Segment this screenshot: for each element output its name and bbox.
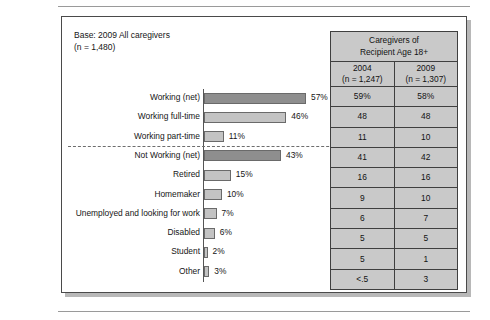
bar-row: Working full-time46% — [62, 108, 334, 127]
table-column-header-2004: 2004 (n = 1,247) — [331, 62, 395, 87]
table-cell-2009: 7 — [394, 208, 458, 228]
bar-category-label: Not Working (net) — [135, 150, 200, 160]
table-head: Caregivers of Recipient Age 18+ 2004 (n … — [331, 32, 458, 87]
table-cell-2004: 16 — [331, 168, 395, 188]
table-row: 59%58% — [331, 87, 458, 107]
bar-row: Student2% — [62, 243, 334, 262]
bar-value-label: 10% — [227, 189, 244, 199]
table-cell-2009: 48 — [394, 107, 458, 127]
table-column-header-row: 2004 (n = 1,247) 2009 (n = 1,307) — [331, 62, 458, 87]
bar-row: Working part-time11% — [62, 128, 334, 147]
bar — [204, 228, 215, 239]
chart-panel: Base: 2009 All caregivers (n = 1,480) Wo… — [61, 16, 467, 293]
bar-category-label: Working (net) — [150, 92, 200, 102]
comparison-table: Caregivers of Recipient Age 18+ 2004 (n … — [330, 31, 458, 290]
bar-category-label: Homemaker — [154, 189, 200, 199]
top-divider-rule — [58, 6, 470, 7]
table-cell-2004: 11 — [331, 127, 395, 147]
bar — [204, 189, 222, 200]
bar-category-label: Unemployed and looking for work — [76, 208, 200, 218]
bar — [204, 266, 209, 277]
table-cell-2004: 6 — [331, 208, 395, 228]
table-cell-2009: 10 — [394, 127, 458, 147]
table-cell-2004: <.5 — [331, 269, 395, 289]
bar-category-label: Working part-time — [134, 131, 200, 141]
bar-row: Retired15% — [62, 166, 334, 185]
bar-value-label: 2% — [213, 246, 225, 256]
table-row: 4848 — [331, 107, 458, 127]
table-row: 1616 — [331, 168, 458, 188]
table-cell-2004: 9 — [331, 188, 395, 208]
table-cell-2009: 5 — [394, 229, 458, 249]
table-row: 910 — [331, 188, 458, 208]
bottom-divider-rule — [58, 311, 470, 312]
table-row: 4142 — [331, 147, 458, 167]
table-cell-2009: 16 — [394, 168, 458, 188]
table-column-header-2009: 2009 (n = 1,307) — [394, 62, 458, 87]
bar-row: Disabled6% — [62, 224, 334, 243]
bar-category-label: Working full-time — [138, 111, 200, 121]
bar-category-label: Disabled — [167, 227, 200, 237]
table-row: 55 — [331, 229, 458, 249]
table-cell-2009: 42 — [394, 147, 458, 167]
table-cell-2004: 5 — [331, 249, 395, 269]
bar — [204, 93, 306, 104]
bar-row: Other3% — [62, 263, 334, 282]
table-cell-2004: 5 — [331, 229, 395, 249]
table-row: 67 — [331, 208, 458, 228]
bar — [204, 208, 217, 219]
bar-value-label: 3% — [214, 266, 226, 276]
bar-category-label: Retired — [173, 169, 200, 179]
bar-value-label: 57% — [311, 92, 328, 102]
bar — [204, 247, 208, 258]
bar-value-label: 46% — [291, 111, 308, 121]
figure-root: Base: 2009 All caregivers (n = 1,480) Wo… — [0, 0, 490, 320]
table-row: 51 — [331, 249, 458, 269]
bar — [204, 112, 286, 123]
bar-row: Homemaker10% — [62, 186, 334, 205]
bar — [204, 131, 224, 142]
bar-row: Unemployed and looking for work7% — [62, 205, 334, 224]
base-note: Base: 2009 All caregivers (n = 1,480) — [74, 29, 170, 53]
table-row: 1110 — [331, 127, 458, 147]
table-title-row: Caregivers of Recipient Age 18+ — [331, 32, 458, 62]
table-cell-2009: 10 — [394, 188, 458, 208]
table-cell-2009: 58% — [394, 87, 458, 107]
bar-row: Not Working (net)43% — [62, 147, 334, 166]
table-cell-2004: 48 — [331, 107, 395, 127]
bar-category-label: Student — [171, 246, 200, 256]
table-cell-2004: 41 — [331, 147, 395, 167]
bar — [204, 170, 231, 181]
bar-value-label: 7% — [222, 208, 234, 218]
table-body: 59%58%4848111041421616910675551<.53 — [331, 87, 458, 290]
bar-value-label: 6% — [220, 227, 232, 237]
bar-row: Working (net)57% — [62, 89, 334, 108]
table-row: <.53 — [331, 269, 458, 289]
table-cell-2004: 59% — [331, 87, 395, 107]
table-cell-2009: 1 — [394, 249, 458, 269]
table-cell-2009: 3 — [394, 269, 458, 289]
bar-category-label: Other — [179, 266, 200, 276]
bar-value-label: 11% — [229, 131, 245, 141]
bar-value-label: 43% — [286, 150, 303, 160]
bar-chart: Working (net)57%Working full-time46%Work… — [62, 89, 334, 285]
bar — [204, 150, 281, 161]
bar-value-label: 15% — [236, 169, 253, 179]
table-title: Caregivers of Recipient Age 18+ — [331, 32, 458, 62]
